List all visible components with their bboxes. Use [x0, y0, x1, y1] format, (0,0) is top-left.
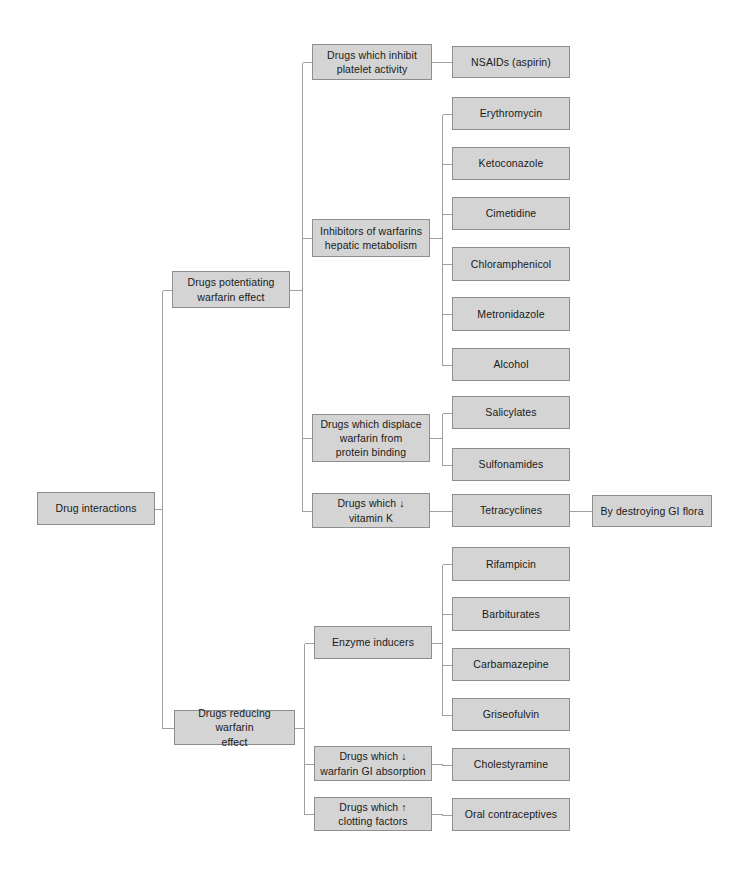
node-label: Alcohol	[493, 357, 528, 371]
node-label: Griseofulvin	[483, 707, 540, 721]
node-label: By destroying GI flora	[600, 504, 703, 518]
node-barbiturates: Barbiturates	[452, 597, 570, 631]
node-drug-interactions: Drug interactions	[37, 492, 155, 525]
node-label: Salicylates	[485, 405, 536, 419]
node-label: Metronidazole	[477, 307, 544, 321]
node-label: Drug interactions	[55, 501, 136, 515]
node-label: Chloramphenicol	[471, 257, 551, 271]
node-enzyme-inducers: Enzyme inducers	[314, 626, 432, 659]
node-label: Rifampicin	[486, 557, 536, 571]
node-drugs-potentiating-warfarin-effect: Drugs potentiating warfarin effect	[172, 271, 290, 308]
node-label: Drugs reducing warfarin effect	[178, 706, 291, 749]
node-drugs-which-inhibit-platelet-activity: Drugs which inhibit platelet activity	[312, 44, 432, 80]
node-drugs-reducing-warfarin-effect: Drugs reducing warfarin effect	[174, 710, 295, 745]
node-griseofulvin: Griseofulvin	[452, 698, 570, 731]
node-label: NSAIDs (aspirin)	[471, 55, 551, 69]
node-label: Erythromycin	[480, 106, 542, 120]
node-label: Drugs which displace warfarin from prote…	[320, 417, 421, 460]
node-cimetidine: Cimetidine	[452, 197, 570, 230]
node-label: Drugs which ↓ warfarin GI absorption	[320, 749, 426, 777]
node-carbamazepine: Carbamazepine	[452, 648, 570, 681]
node-label: Drugs potentiating warfarin effect	[187, 275, 274, 303]
node-metronidazole: Metronidazole	[452, 297, 570, 331]
node-alcohol: Alcohol	[452, 348, 570, 381]
node-label: Cimetidine	[486, 206, 537, 220]
node-rifampicin: Rifampicin	[452, 547, 570, 581]
node-label: Drugs which inhibit platelet activity	[327, 48, 417, 76]
node-erythromycin: Erythromycin	[452, 97, 570, 130]
node-salicylates: Salicylates	[452, 396, 570, 429]
node-label: Sulfonamides	[479, 457, 544, 471]
node-label: Drugs which ↓ vitamin K	[337, 496, 404, 524]
node-label: Barbiturates	[482, 607, 540, 621]
node-nsaids-aspirin: NSAIDs (aspirin)	[452, 46, 570, 78]
node-drugs-which-warfarin-gi-absorption: Drugs which ↓ warfarin GI absorption	[314, 746, 432, 781]
node-label: Inhibitors of warfarins hepatic metaboli…	[320, 224, 422, 252]
node-inhibitors-of-warfarins-hepatic-metaboli: Inhibitors of warfarins hepatic metaboli…	[312, 219, 430, 257]
node-label: Carbamazepine	[473, 657, 548, 671]
node-sulfonamides: Sulfonamides	[452, 448, 570, 481]
node-chloramphenicol: Chloramphenicol	[452, 247, 570, 281]
node-drugs-which-vitamin-k: Drugs which ↓ vitamin K	[312, 493, 430, 528]
diagram-canvas: Drug interactionsDrugs potentiating warf…	[0, 0, 736, 880]
node-label: Cholestyramine	[474, 757, 548, 771]
node-ketoconazole: Ketoconazole	[452, 147, 570, 180]
node-label: Oral contraceptives	[465, 807, 557, 821]
node-label: Drugs which ↑ clotting factors	[338, 800, 407, 828]
node-label: Enzyme inducers	[332, 635, 414, 649]
node-by-destroying-gi-flora: By destroying GI flora	[592, 495, 712, 527]
node-drugs-which-clotting-factors: Drugs which ↑ clotting factors	[314, 797, 432, 831]
node-oral-contraceptives: Oral contraceptives	[452, 798, 570, 831]
node-label: Tetracyclines	[480, 503, 542, 517]
node-cholestyramine: Cholestyramine	[452, 748, 570, 781]
node-drugs-which-displace-warfarin-from-prote: Drugs which displace warfarin from prote…	[312, 414, 430, 462]
node-tetracyclines: Tetracyclines	[452, 494, 570, 527]
node-label: Ketoconazole	[479, 156, 544, 170]
